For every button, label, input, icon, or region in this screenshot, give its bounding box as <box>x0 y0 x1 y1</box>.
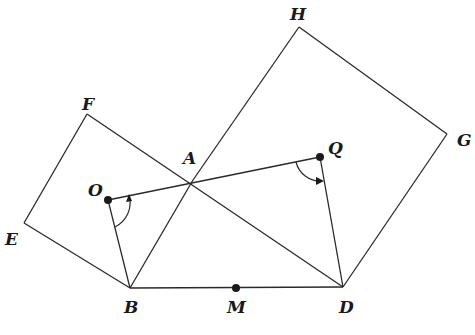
point-O <box>104 196 112 204</box>
segment-FD <box>87 114 343 287</box>
geometry-diagram: A B D E F G H M O Q <box>0 0 475 335</box>
segment-OQ <box>108 157 320 200</box>
label-E: E <box>4 229 19 249</box>
label-O: O <box>88 180 103 200</box>
segment-EF <box>24 114 87 223</box>
segment-AB <box>130 180 193 288</box>
segment-BH <box>193 27 299 180</box>
label-G: G <box>457 130 472 150</box>
arrow-head-Q <box>316 177 324 185</box>
point-M <box>232 284 240 292</box>
segment-GD <box>343 134 447 287</box>
segment-OB <box>108 200 130 288</box>
label-A: A <box>181 148 196 168</box>
label-Q: Q <box>328 138 343 158</box>
label-B: B <box>123 297 138 317</box>
label-D: D <box>338 297 354 317</box>
segment-QD <box>320 157 343 287</box>
segment-BE <box>24 223 130 288</box>
label-M: M <box>226 297 247 317</box>
label-H: H <box>289 4 307 24</box>
point-Q <box>316 153 324 161</box>
segment-HG <box>299 27 447 134</box>
label-F: F <box>81 94 96 114</box>
